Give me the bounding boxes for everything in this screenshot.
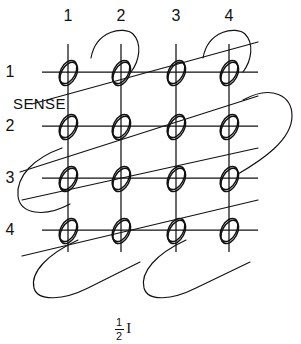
- column-label-1: 1: [58, 8, 78, 24]
- sense-wire-turn-top-left: [91, 30, 139, 72]
- row-label-2: 2: [2, 118, 18, 134]
- core-plane-drawing: [0, 0, 301, 344]
- column-label-4: 4: [219, 8, 239, 24]
- column-label-2: 2: [111, 8, 131, 24]
- row-drive-lines-group: [42, 72, 258, 230]
- row-label-1: 1: [2, 64, 18, 80]
- current-symbol: I: [126, 321, 131, 336]
- row-label-4: 4: [2, 222, 18, 238]
- sense-wire-turn-bottom-left: [33, 240, 140, 298]
- sense-wire-group: [18, 30, 292, 297]
- one-half-fraction: 1 2: [114, 317, 124, 342]
- sense-wire-turn-right: [238, 93, 292, 174]
- fraction-denominator: 2: [114, 331, 124, 342]
- column-drive-lines-group: [68, 44, 229, 252]
- sense-wire-label: SENSE: [13, 96, 66, 111]
- sense-wire-segment-row1: [32, 42, 258, 104]
- core-memory-diagram: 1 2 3 4 1 2 3 4 SENSE 1 2 I: [0, 0, 301, 344]
- half-current-label: 1 2 I: [114, 316, 131, 341]
- row-label-3: 3: [2, 170, 18, 186]
- sense-wire-turn-left: [18, 148, 70, 212]
- fraction-numerator: 1: [114, 317, 124, 328]
- sense-wire-turn-bottom-right: [143, 240, 250, 298]
- column-label-3: 3: [166, 8, 186, 24]
